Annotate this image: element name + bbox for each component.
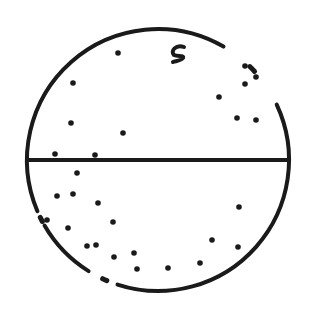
dot bbox=[253, 74, 259, 80]
dot bbox=[253, 117, 259, 123]
dot bbox=[93, 242, 99, 248]
curl-mark bbox=[173, 46, 184, 62]
outline-arc bbox=[27, 29, 224, 211]
dot bbox=[54, 193, 60, 199]
dot bbox=[197, 260, 203, 266]
dot bbox=[44, 217, 50, 223]
dot bbox=[92, 152, 98, 158]
dot bbox=[68, 120, 74, 126]
dot bbox=[165, 265, 171, 271]
outline-arc bbox=[45, 226, 89, 272]
dot bbox=[209, 237, 215, 243]
diagram-canvas bbox=[0, 0, 312, 311]
dot bbox=[234, 115, 240, 121]
dot bbox=[134, 266, 140, 272]
dot bbox=[70, 191, 76, 197]
dot bbox=[84, 243, 90, 249]
upper-dots-group bbox=[52, 50, 259, 158]
dot bbox=[111, 254, 117, 260]
outline-fragment bbox=[250, 67, 255, 72]
dot bbox=[235, 244, 241, 250]
dot bbox=[65, 225, 71, 231]
outline-fragment bbox=[103, 279, 107, 281]
dot bbox=[52, 151, 58, 157]
dot bbox=[236, 204, 242, 210]
lower-dots-group bbox=[44, 170, 242, 272]
outline-fragment bbox=[40, 217, 42, 221]
dot bbox=[131, 250, 137, 256]
dot bbox=[115, 50, 121, 56]
dot bbox=[120, 130, 126, 136]
dot bbox=[216, 94, 222, 100]
dot bbox=[95, 200, 101, 206]
dot bbox=[242, 81, 248, 87]
dot bbox=[242, 63, 248, 69]
dot bbox=[70, 80, 76, 86]
dot bbox=[110, 219, 116, 225]
outline-arc bbox=[118, 105, 289, 291]
dot bbox=[74, 170, 80, 176]
